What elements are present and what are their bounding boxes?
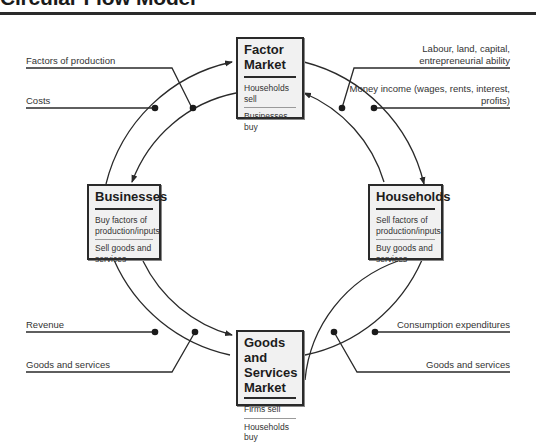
item-divider — [244, 107, 296, 108]
households-item-sell-factors: Sell factors of production/inputs — [376, 213, 435, 238]
households-heading: Households — [376, 189, 435, 204]
businesses-box: Businesses Buy factors of production/inp… — [87, 184, 161, 260]
factor-market-heading: Factor Market — [244, 42, 296, 72]
label-goods-and-services-left: Goods and services — [26, 359, 110, 371]
businesses-heading: Businesses — [95, 189, 153, 204]
label-consumption-expenditures: Consumption expenditures — [397, 319, 510, 331]
goods-market-heading: Goods and Services Market — [244, 335, 296, 395]
item-divider — [244, 418, 296, 419]
goods-and-services-market-box: Goods and Services Market Firms sell Hou… — [236, 330, 304, 406]
label-costs: Costs — [26, 95, 50, 107]
label-revenue: Revenue — [26, 319, 64, 331]
label-factors-of-production: Factors of production — [26, 55, 115, 67]
factor-market-item-households-sell: Households sell — [244, 81, 296, 106]
heading-divider — [95, 208, 153, 210]
heading-divider — [376, 208, 435, 210]
heading-divider — [244, 397, 296, 399]
households-item-buy-goods: Buy goods and services — [376, 241, 435, 266]
item-divider — [95, 239, 153, 240]
factor-market-box: Factor Market Households sell Businesses… — [236, 37, 304, 119]
label-goods-and-services-right: Goods and services — [426, 359, 510, 371]
label-labour-land-capital: Labour, land, capital, entrepreneurial a… — [390, 43, 510, 67]
arc-revenue-outer — [114, 260, 230, 355]
arc-income-outer — [304, 62, 424, 184]
households-box: Households Sell factors of production/in… — [368, 184, 443, 260]
leader-factors-of-production — [26, 68, 192, 108]
arc-consumption-outer — [305, 260, 422, 355]
factor-market-item-businesses-buy: Businesses buy — [244, 109, 296, 134]
arc-goods-left-inner — [143, 261, 232, 335]
arc-factors-inner — [132, 93, 236, 182]
item-divider — [376, 239, 435, 240]
arc-costs-outer — [106, 62, 232, 184]
label-money-income: Money income (wages, rents, interest, pr… — [340, 83, 510, 107]
heading-divider — [244, 76, 296, 78]
businesses-item-sell-goods: Sell goods and services — [95, 241, 153, 266]
goods-market-item-firms-sell: Firms sell — [244, 402, 296, 417]
businesses-item-buy-factors: Buy factors of production/inputs — [95, 213, 153, 238]
goods-market-item-households-buy: Households buy — [244, 420, 296, 445]
